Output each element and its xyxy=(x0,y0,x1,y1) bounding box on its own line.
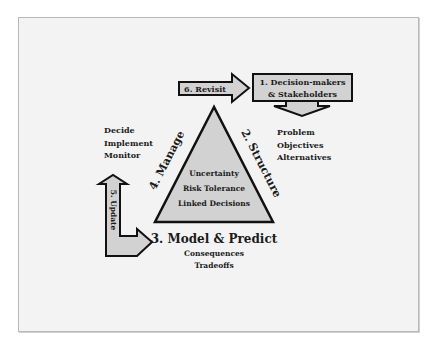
structure-item-objectives: Objectives xyxy=(277,139,331,152)
triangle-item-linked-decisions: Linked Decisions xyxy=(178,199,250,208)
update-arrow: 5. Update xyxy=(99,175,152,256)
revisit-arrow: 6. Revisit xyxy=(179,74,249,102)
manage-item-implement: Implement xyxy=(104,137,153,150)
decision-makers-label-line2: & Stakeholders xyxy=(268,89,337,99)
triangle-item-uncertainty: Uncertainty xyxy=(189,169,239,178)
model-item-tradeoffs: Tradeoffs xyxy=(194,261,233,270)
revisit-label: 6. Revisit xyxy=(184,84,226,94)
structure-items-list: Problem Objectives Alternatives xyxy=(277,126,331,164)
decision-makers-label-line1: 1. Decision-makers xyxy=(259,77,346,87)
manage-item-decide: Decide xyxy=(104,124,153,137)
manage-items-list: Decide Implement Monitor xyxy=(104,124,153,162)
manage-item-monitor: Monitor xyxy=(104,149,153,162)
decision-makers-box: 1. Decision-makers & Stakeholders xyxy=(253,74,352,101)
structure-item-problem: Problem xyxy=(277,126,331,139)
update-label: 5. Update xyxy=(109,190,118,231)
model-item-consequences: Consequences xyxy=(184,249,244,258)
model-predict-label: 3. Model & Predict xyxy=(151,232,278,246)
decision-cycle-diagram: 6. Revisit 1. Decision-makers & Stakehol… xyxy=(0,0,435,347)
down-arrow-icon xyxy=(274,101,330,116)
triangle-item-risk-tolerance: Risk Tolerance xyxy=(183,184,245,193)
structure-item-alternatives: Alternatives xyxy=(277,151,331,164)
